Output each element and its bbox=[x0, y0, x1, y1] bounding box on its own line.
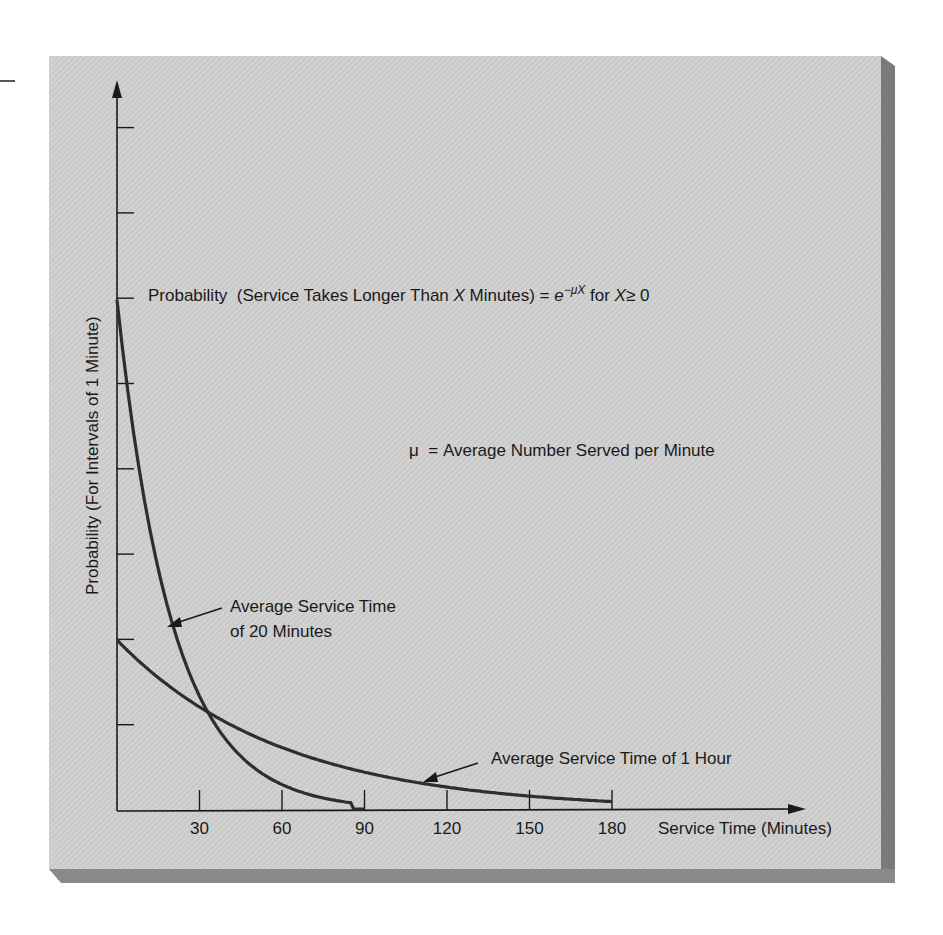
y-axis bbox=[112, 80, 134, 811]
x-tick-label: 60 bbox=[273, 819, 292, 838]
curve-20-minutes bbox=[117, 300, 365, 809]
x-tick-label: 120 bbox=[433, 819, 461, 838]
annotation-20-minutes: Average Service Time of 20 Minutes bbox=[167, 597, 396, 641]
x-axis-ticks bbox=[200, 790, 613, 810]
svg-text:Average Service Time: Average Service Time bbox=[230, 597, 396, 616]
y-axis-arrow-icon bbox=[112, 80, 122, 98]
chart-plot: Probability (Service Takes Longer Than X… bbox=[0, 0, 943, 935]
x-tick-label: 30 bbox=[190, 819, 209, 838]
y-axis-label: Probability (For Intervals of 1 Minute) bbox=[83, 316, 102, 595]
x-axis bbox=[117, 790, 806, 814]
svg-text:Average Service Time of 1 Hour: Average Service Time of 1 Hour bbox=[491, 749, 732, 768]
annotation-1-hour: Average Service Time of 1 Hour bbox=[423, 749, 732, 782]
x-axis-arrow-icon bbox=[788, 804, 806, 814]
curve-1-hour bbox=[117, 640, 612, 802]
x-tick-label: 150 bbox=[515, 819, 543, 838]
x-axis-label: Service Time (Minutes) bbox=[658, 819, 832, 838]
formula-text: Probability (Service Takes Longer Than X… bbox=[148, 283, 649, 305]
mu-definition: μ = Average Number Served per Minute bbox=[409, 441, 715, 460]
arrow-icon bbox=[423, 772, 438, 782]
svg-text:of 20 Minutes: of 20 Minutes bbox=[230, 622, 332, 641]
x-tick-label: 90 bbox=[355, 819, 374, 838]
x-tick-label: 180 bbox=[598, 819, 626, 838]
x-tick-labels: 306090120150180 bbox=[190, 819, 626, 838]
